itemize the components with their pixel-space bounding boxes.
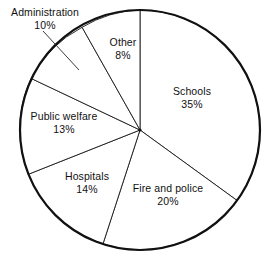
pie-label-other-name: Other (100, 36, 146, 49)
pie-label-hospitals-name: Hospitals (58, 170, 116, 183)
pie-label-public-welfare-name: Public welfare (26, 110, 102, 123)
pie-label-hospitals-percent: 14% (58, 183, 116, 196)
pie-label-schools: Schools 35% (166, 85, 218, 110)
pie-label-public-welfare: Public welfare 13% (26, 110, 102, 135)
pie-label-fire-and-police-name: Fire and police (128, 182, 208, 195)
pie-label-schools-name: Schools (166, 85, 218, 98)
pie-label-hospitals: Hospitals 14% (58, 170, 116, 195)
pie-label-fire-and-police: Fire and police 20% (128, 182, 208, 207)
pie-chart-page: Administration 10% Other 8% Schools 35% … (0, 0, 267, 259)
pie-label-fire-and-police-percent: 20% (128, 195, 208, 208)
pie-center-point (138, 128, 141, 131)
pie-label-other-percent: 8% (100, 49, 146, 62)
pie-label-public-welfare-percent: 13% (26, 123, 102, 136)
pie-label-administration: Administration 10% (2, 6, 88, 31)
pie-label-administration-percent: 10% (2, 19, 88, 32)
pie-label-administration-name: Administration (2, 6, 88, 19)
pie-label-other: Other 8% (100, 36, 146, 61)
pie-label-schools-percent: 35% (166, 98, 218, 111)
